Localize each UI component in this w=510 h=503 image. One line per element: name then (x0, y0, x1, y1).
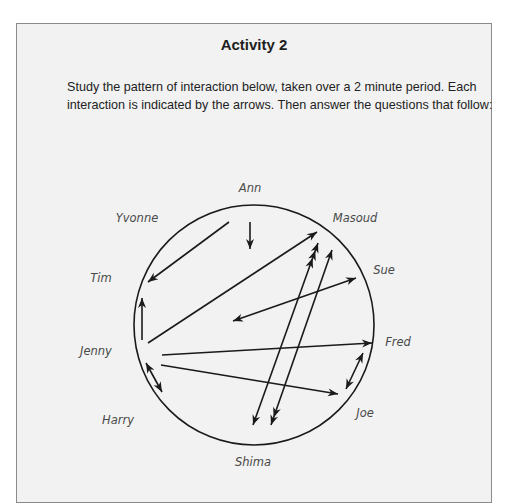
participant-label-fred: Fred (385, 335, 411, 349)
interaction-arrow (233, 278, 356, 322)
interaction-arrow (161, 365, 338, 396)
participant-label-shima: Shima (235, 455, 271, 469)
participant-label-sue: Sue (373, 263, 395, 277)
interaction-arrow (253, 243, 319, 425)
interaction-arrow (146, 363, 162, 392)
participant-label-harry: Harry (102, 413, 134, 427)
interaction-arrow (346, 353, 363, 389)
interaction-arrows (138, 222, 372, 425)
participant-label-yvonne: Yvonne (116, 211, 159, 225)
participant-label-joe: Joe (354, 406, 374, 420)
interaction-arrow (271, 250, 333, 425)
interaction-arrow (138, 298, 146, 340)
group-circle (134, 205, 374, 445)
interaction-arrow (246, 222, 254, 249)
participant-label-jenny: Jenny (78, 344, 112, 358)
participant-labels: AnnYvonneMasoudTimSueJennyFredHarryJoeSh… (78, 181, 411, 469)
participant-label-masoud: Masoud (333, 211, 378, 225)
interaction-arrow (148, 232, 317, 343)
interaction-arrow (162, 340, 372, 355)
arrowhead-icon (148, 273, 158, 282)
participant-label-ann: Ann (238, 181, 261, 195)
participant-label-tim: Tim (90, 271, 111, 285)
interaction-arrow (148, 222, 229, 282)
arrowhead-icon (306, 232, 317, 241)
